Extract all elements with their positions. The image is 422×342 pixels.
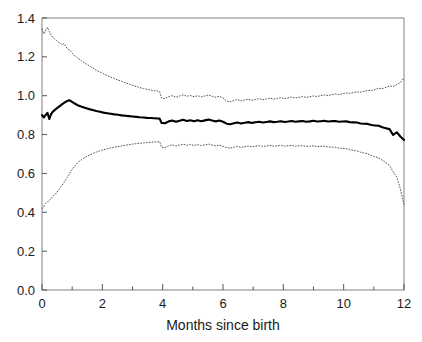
data-series-group [42,27,404,208]
x-axis: 024681012 [38,284,411,311]
x-tick-label: 2 [99,296,106,311]
x-tick-label: 6 [219,296,226,311]
y-tick-label: 0.4 [17,205,35,220]
plot-frame [42,18,404,290]
x-tick-label: 8 [280,296,287,311]
series-line-point-estimate [42,100,404,140]
series-line-lower-confidence-limit [42,142,404,209]
x-tick-label: 4 [159,296,166,311]
chart-canvas: 0.00.20.40.60.81.01.21.4 024681012 Month… [0,0,422,342]
y-tick-label: 0.8 [17,127,35,142]
y-tick-label: 1.0 [17,88,35,103]
x-tick-label: 0 [38,296,45,311]
x-axis-title: Months since birth [166,317,280,333]
y-tick-label: 1.4 [17,11,35,26]
y-tick-label: 1.2 [17,49,35,64]
series-line-upper-confidence-limit [42,27,404,102]
chart-figure: 0.00.20.40.60.81.01.21.4 024681012 Month… [0,0,422,342]
y-tick-label: 0.6 [17,166,35,181]
y-tick-label: 0.2 [17,244,35,259]
x-tick-label: 12 [397,296,411,311]
y-tick-label: 0.0 [17,283,35,298]
x-tick-label: 10 [336,296,350,311]
